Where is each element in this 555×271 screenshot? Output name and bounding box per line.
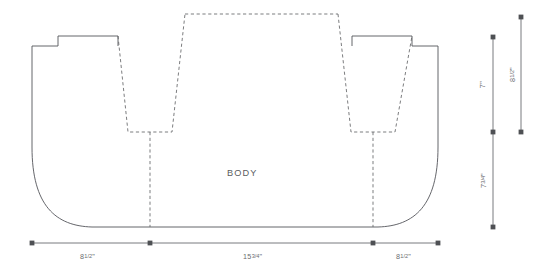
left-tab-dashed	[118, 14, 185, 132]
dim-tick-left-end	[30, 241, 35, 246]
dim-tick-left-mid	[148, 241, 153, 246]
outer-cut-outline	[32, 36, 438, 227]
vdim-upper-unit: "	[478, 81, 487, 84]
dim-left-unit: "	[92, 252, 95, 261]
dim-label-upper-inner-height: 7"	[478, 81, 487, 88]
vdim-upper-whole: 7	[478, 84, 487, 88]
vertical-dimension-line-outer	[519, 15, 524, 135]
dim-label-overall-outer-height: 81/2"	[508, 67, 517, 82]
body-label: BODY	[227, 168, 258, 178]
vdim-tick-outer-top	[519, 15, 524, 20]
dim-left-fraction: 1/2	[84, 253, 92, 259]
vdim-tick-outer-bottom	[519, 130, 524, 135]
dim-label-right-section: 81/2"	[396, 252, 411, 261]
dim-label-lower-body-height: 73/4"	[479, 173, 488, 188]
dim-right-fraction: 1/2	[400, 253, 408, 259]
dim-right-unit: "	[408, 252, 411, 261]
vdim-lower-unit: "	[479, 173, 488, 176]
vdim-outer-unit: "	[508, 67, 517, 70]
vdim-tick-inner-top	[491, 35, 496, 40]
vdim-lower-fraction: 3/4	[480, 176, 486, 184]
vertical-dimension-line-inner	[491, 35, 496, 230]
dim-label-center-section: 153/4"	[243, 252, 262, 261]
vdim-tick-inner-mid	[491, 130, 496, 135]
pattern-drawing	[0, 0, 555, 271]
vdim-lower-whole: 7	[479, 184, 488, 188]
vdim-outer-fraction: 1/2	[509, 70, 515, 78]
dim-center-whole: 15	[243, 252, 252, 261]
vdim-tick-inner-bottom	[491, 225, 496, 230]
dim-center-unit: "	[259, 252, 262, 261]
dim-tick-right-mid	[371, 241, 376, 246]
dim-label-left-section: 81/2"	[80, 252, 95, 261]
vdim-outer-whole: 8	[508, 78, 517, 82]
dim-tick-right-end	[436, 241, 441, 246]
pattern-figure: BODY 81/2" 153/4" 81/2" 7" 73/4" 81/2"	[0, 0, 555, 271]
horizontal-dimension-line	[30, 241, 441, 246]
right-tab-dashed	[338, 14, 412, 132]
inner-fold-lines	[118, 14, 412, 227]
